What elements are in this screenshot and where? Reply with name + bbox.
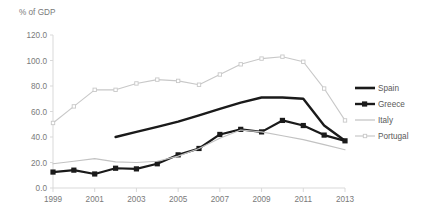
series-marker-greece <box>217 132 222 137</box>
y-tick-label: 60.0 <box>31 108 47 117</box>
series-marker-greece <box>71 168 76 173</box>
series-marker-greece <box>155 161 160 166</box>
series-marker-greece <box>280 118 285 123</box>
legend-label-spain: Spain <box>378 84 399 93</box>
legend-label-greece: Greece <box>378 100 405 109</box>
series-marker-greece <box>50 169 55 174</box>
y-tick-label: 20.0 <box>31 159 47 168</box>
line-chart: % of GDP120.0100.080.060.040.020.00.0199… <box>0 0 434 220</box>
series-marker-portugal <box>281 55 284 58</box>
x-tick-label: 2007 <box>211 195 230 204</box>
chart-container: % of GDP120.0100.080.060.040.020.00.0199… <box>0 0 434 220</box>
series-marker-greece <box>301 123 306 128</box>
legend-item-greece[interactable]: Greece <box>355 100 405 109</box>
y-axis-title: % of GDP <box>19 8 56 17</box>
series-marker-portugal <box>260 57 263 60</box>
y-tick-label: 80.0 <box>31 82 47 91</box>
x-tick-label: 2009 <box>252 195 271 204</box>
legend-item-spain[interactable]: Spain <box>355 84 399 93</box>
x-tick-label: 1999 <box>44 195 63 204</box>
legend-item-italy[interactable]: Italy <box>355 116 394 125</box>
legend-item-portugal[interactable]: Portugal <box>355 132 409 141</box>
series-marker-portugal <box>343 119 346 122</box>
legend-marker-greece <box>362 101 367 106</box>
series-marker-portugal <box>218 73 221 76</box>
series-marker-portugal <box>93 88 96 91</box>
series-marker-greece <box>322 132 327 137</box>
series-marker-greece <box>92 171 97 176</box>
x-tick-label: 2011 <box>294 195 312 204</box>
y-tick-label: 120.0 <box>27 31 48 40</box>
x-tick-label: 2001 <box>86 195 105 204</box>
series-marker-portugal <box>322 87 325 90</box>
series-marker-portugal <box>197 83 200 86</box>
series-marker-portugal <box>302 60 305 63</box>
series-marker-portugal <box>156 78 159 81</box>
series-marker-portugal <box>135 82 138 85</box>
series-marker-portugal <box>51 121 54 124</box>
legend-marker-portugal <box>363 134 366 137</box>
y-tick-label: 100.0 <box>27 57 48 66</box>
series-marker-greece <box>134 166 139 171</box>
x-tick-label: 2005 <box>169 195 188 204</box>
series-marker-portugal <box>239 63 242 66</box>
x-tick-label: 2013 <box>336 195 355 204</box>
y-tick-label: 40.0 <box>31 133 47 142</box>
x-tick-label: 2003 <box>127 195 146 204</box>
y-tick-label: 0.0 <box>36 184 48 193</box>
series-marker-portugal <box>114 88 117 91</box>
legend-label-italy: Italy <box>378 116 394 125</box>
series-marker-portugal <box>72 105 75 108</box>
series-marker-greece <box>342 138 347 143</box>
series-marker-greece <box>113 166 118 171</box>
series-marker-portugal <box>176 79 179 82</box>
legend-label-portugal: Portugal <box>378 132 409 141</box>
